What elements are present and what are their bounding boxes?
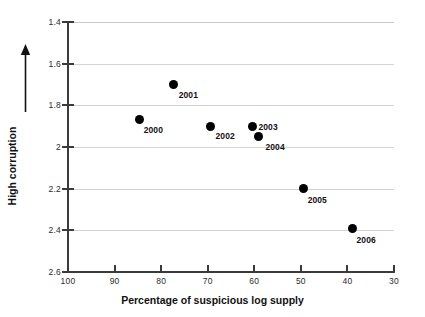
gridline (68, 147, 394, 148)
data-point-label: 2005 (308, 195, 327, 205)
x-axis-tick-label: 70 (188, 276, 228, 286)
x-axis-tick-label: 40 (327, 276, 367, 286)
gridline (68, 230, 394, 231)
x-axis-tick-label: 30 (374, 276, 414, 286)
y-axis-tick (62, 21, 74, 23)
x-axis-tick-label: 90 (95, 276, 135, 286)
x-axis-tick-label: 50 (281, 276, 321, 286)
data-point-label: 2002 (216, 131, 235, 141)
up-arrow-icon (20, 44, 31, 112)
y-axis-tick (62, 146, 74, 148)
x-axis-tick-label: 100 (48, 276, 88, 286)
x-axis-tick (160, 265, 162, 273)
x-axis-tick (300, 265, 302, 273)
y-axis-tick (62, 229, 74, 231)
y-axis-tick (62, 63, 74, 65)
data-point-label: 2004 (265, 142, 284, 152)
data-point-label: 2001 (179, 90, 198, 100)
data-point-label: 2003 (258, 122, 277, 132)
x-axis-tick (207, 265, 209, 273)
y-axis-tick-label: 2.4 (21, 225, 61, 235)
y-axis-tick (62, 188, 74, 190)
x-axis-tick (253, 265, 255, 273)
data-point-label: 2006 (357, 235, 376, 245)
data-point (248, 122, 257, 131)
x-axis-tick-label: 60 (234, 276, 274, 286)
gridline (68, 105, 394, 106)
x-axis-tick (346, 265, 348, 273)
gridline (68, 22, 394, 23)
x-axis-title: Percentage of suspicious log supply (0, 294, 425, 306)
y-axis-tick-label: 2 (21, 142, 61, 152)
data-point (348, 224, 357, 233)
data-point (206, 122, 215, 131)
y-axis-title: High corruption (6, 106, 18, 226)
x-axis-tick-label: 80 (141, 276, 181, 286)
x-axis-tick (67, 265, 69, 273)
scatter-chart: 1.41.61.822.22.42.6 10090807060504030 20… (0, 0, 425, 317)
x-axis-tick (393, 265, 395, 273)
y-axis-tick-label: 1.4 (21, 17, 61, 27)
plot-area (68, 22, 394, 272)
data-point (254, 132, 263, 141)
gridline (68, 189, 394, 190)
y-axis-tick-label: 2.2 (21, 184, 61, 194)
gridline (68, 64, 394, 65)
y-axis-tick (62, 104, 74, 106)
data-point-label: 2000 (144, 125, 163, 135)
x-axis-tick (114, 265, 116, 273)
